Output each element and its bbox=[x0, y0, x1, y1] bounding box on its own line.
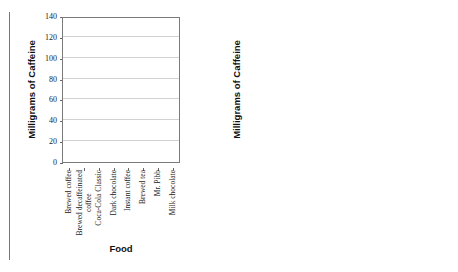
x-tick-label: Mr. Pibb bbox=[154, 170, 163, 196]
y-axis-title-right: Milligrams of Caffeine bbox=[227, 14, 245, 164]
gridline bbox=[63, 57, 179, 58]
x-tick-group: Milk chocolate bbox=[165, 168, 180, 238]
x-tick-group: Brewed tea bbox=[136, 168, 151, 238]
gridline bbox=[63, 119, 179, 120]
y-tick-label: 100 bbox=[45, 55, 57, 63]
gridline bbox=[63, 36, 179, 37]
x-tick-label: Brewed tea bbox=[139, 170, 148, 204]
x-tick-group: Mr. Pibb bbox=[151, 168, 166, 238]
x-tick-label: Brewed coffee bbox=[65, 170, 74, 214]
x-tick-label: Instant coffee bbox=[124, 170, 133, 211]
x-axis-labels-left: Brewed coffeeBrewed decaffeinatedcoffeeC… bbox=[62, 168, 180, 238]
y-tick-mark bbox=[60, 163, 63, 164]
plot-area-left bbox=[62, 17, 180, 163]
gridline bbox=[63, 140, 179, 141]
x-tick-group: Brewed decaffeinatedcoffee bbox=[77, 168, 92, 238]
x-tick-label: Milk chocolate bbox=[168, 170, 177, 215]
gridline bbox=[63, 78, 179, 79]
y-tick-label: 20 bbox=[49, 138, 57, 146]
x-tick-group: Dark chocolate bbox=[106, 168, 121, 238]
y-tick-label: 80 bbox=[49, 76, 57, 84]
x-tick-label: Dark chocolate bbox=[109, 170, 118, 216]
x-tick-group: Instant coffee bbox=[121, 168, 136, 238]
y-axis-ticks-left: 020406080100120140 bbox=[38, 11, 60, 169]
y-tick-label: 40 bbox=[49, 117, 57, 125]
x-tick-group: Coca-Cola Classic bbox=[92, 168, 107, 238]
chart-pair-container: Milligrams of Caffeine 02040608010012014… bbox=[0, 0, 458, 272]
x-tick-label: Brewed decaffeinatedcoffee bbox=[76, 170, 93, 235]
x-axis-title-left: Food bbox=[62, 243, 180, 254]
y-tick-label: 140 bbox=[45, 13, 57, 21]
y-tick-label: 60 bbox=[49, 96, 57, 104]
chart-panel-data: Milligrams of Caffeine 02040608010012014… bbox=[229, 0, 458, 272]
x-tick-label: Coca-Cola Classic bbox=[95, 170, 104, 226]
y-tick-label: 120 bbox=[45, 34, 57, 42]
chart-panel-blank: Milligrams of Caffeine 02040608010012014… bbox=[0, 0, 229, 272]
y-tick-label: 0 bbox=[53, 159, 57, 167]
gridline bbox=[63, 98, 179, 99]
